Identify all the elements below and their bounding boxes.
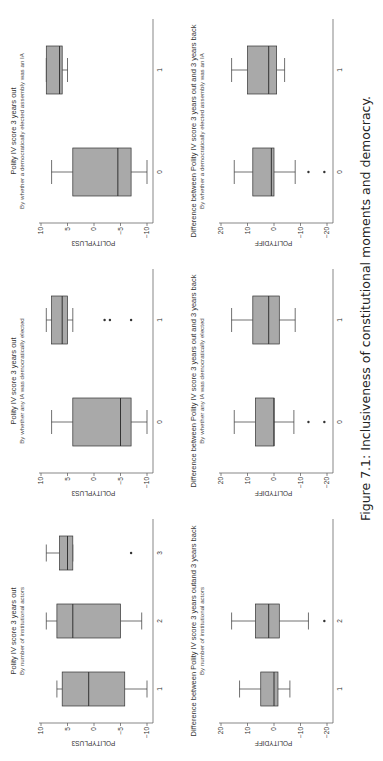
box: [62, 672, 125, 706]
outlier-point: [130, 319, 132, 321]
x-tick-label: 1: [156, 65, 163, 75]
chart-title: Difference between Polity IV score 3 yea…: [189, 511, 198, 751]
x-tick-label: 0: [156, 417, 163, 427]
boxplot-svg: [5, 511, 165, 751]
y-tick-label: −5: [117, 227, 124, 241]
boxplot-svg: [185, 511, 345, 751]
outlier-point: [323, 620, 325, 622]
chart-subtitle: By whether a democratically elected asse…: [18, 11, 26, 251]
y-tick-label: 20: [217, 727, 224, 741]
y-tick-label: 10: [37, 727, 44, 741]
box: [248, 46, 277, 94]
chart-subtitle: By number of institutional actors: [198, 511, 206, 751]
outlier-point: [130, 552, 132, 554]
y-tick-label: 10: [244, 727, 251, 741]
y-tick-label: 5: [64, 727, 71, 741]
x-tick-label: 2: [156, 616, 163, 626]
outlier-point: [323, 171, 325, 173]
y-tick-label: 5: [64, 477, 71, 491]
box: [253, 148, 274, 196]
chart-panel: Difference between Polity IV score 3 yea…: [185, 261, 345, 501]
chart-panel: Polity IV score 3 years outBy whether a …: [5, 11, 165, 251]
chart-panel: Difference between Polity IV score 3 yea…: [185, 11, 345, 251]
chart-title: Difference between Polity IV score 3 yea…: [189, 11, 198, 251]
box: [60, 536, 73, 570]
y-tick-label: −10: [297, 477, 304, 491]
y-tick-label: 10: [244, 477, 251, 491]
x-tick-label: 0: [336, 167, 343, 177]
y-tick-label: −20: [323, 227, 330, 241]
y-tick-label: 0: [270, 227, 277, 241]
y-tick-label: 0: [90, 477, 97, 491]
y-tick-label: −5: [117, 727, 124, 741]
y-tick-label: 20: [217, 477, 224, 491]
boxplot-svg: [5, 261, 165, 501]
y-tick-label: 0: [90, 227, 97, 241]
figure-caption: Figure 7.1: Inclusiveness of constitutio…: [358, 96, 373, 521]
chart-title: Polity IV score 3 years out: [9, 261, 18, 501]
chart-subtitle: By whether any IA was democratically ele…: [198, 261, 206, 501]
y-tick-label: −5: [117, 477, 124, 491]
y-tick-label: 5: [64, 227, 71, 241]
y-tick-label: 10: [37, 477, 44, 491]
y-tick-label: −10: [143, 227, 150, 241]
x-tick-label: 1: [156, 684, 163, 694]
y-tick-label: −10: [143, 727, 150, 741]
x-tick-label: 2: [336, 616, 343, 626]
box: [255, 604, 279, 638]
chart-title: Difference between Polity IV score 3 yea…: [189, 261, 198, 501]
box: [253, 296, 279, 344]
outlier-point: [103, 319, 105, 321]
box: [255, 398, 274, 446]
chart-title: Polity IV score 3 years out: [9, 11, 18, 251]
x-tick-label: 0: [156, 167, 163, 177]
outlier-point: [307, 171, 309, 173]
boxplot-svg: [5, 11, 165, 251]
box: [57, 604, 121, 638]
outlier-point: [109, 319, 111, 321]
y-tick-label: 0: [270, 477, 277, 491]
x-tick-label: 1: [156, 315, 163, 325]
chart-title: Polity IV score 3 years out: [9, 511, 18, 751]
boxplot-svg: [185, 261, 345, 501]
y-tick-label: −20: [323, 727, 330, 741]
x-tick-label: 0: [336, 417, 343, 427]
chart-panel: Polity IV score 3 years outBy number of …: [5, 511, 165, 751]
boxplot-svg: [185, 11, 345, 251]
x-tick-label: 1: [336, 315, 343, 325]
chart-subtitle: By whether a democratically elected asse…: [198, 11, 206, 251]
outlier-point: [307, 421, 309, 423]
y-tick-label: −20: [323, 477, 330, 491]
y-tick-label: −10: [143, 477, 150, 491]
outlier-point: [323, 421, 325, 423]
chart-panel: Polity IV score 3 years outBy whether an…: [5, 261, 165, 501]
y-tick-label: 10: [244, 227, 251, 241]
x-tick-label: 1: [336, 65, 343, 75]
chart-subtitle: By whether any IA was democratically ele…: [18, 261, 26, 501]
chart-subtitle: By number of institutional actors: [18, 511, 26, 751]
y-tick-label: 20: [217, 227, 224, 241]
y-tick-label: 0: [90, 727, 97, 741]
box: [73, 398, 131, 446]
y-tick-label: 10: [37, 227, 44, 241]
x-tick-label: 1: [336, 684, 343, 694]
y-tick-label: 0: [270, 727, 277, 741]
y-tick-label: −10: [297, 227, 304, 241]
box: [52, 296, 68, 344]
box: [261, 672, 278, 706]
x-tick-label: 3: [156, 548, 163, 558]
rotated-figure-page: Polity IV score 3 years outBy number of …: [0, 0, 383, 761]
y-tick-label: −10: [297, 727, 304, 741]
box: [73, 148, 131, 196]
chart-panel: Difference between Polity IV score 3 yea…: [185, 511, 345, 751]
